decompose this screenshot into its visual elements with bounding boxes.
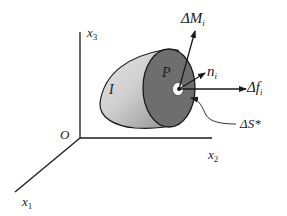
x1-axis-label: x1 bbox=[22, 195, 32, 211]
surface-leader-line bbox=[191, 98, 236, 124]
x3-axis-label: x3 bbox=[87, 26, 97, 42]
moment-label: ΔMi bbox=[181, 11, 205, 28]
diagram-drawing bbox=[0, 0, 287, 216]
body-label: I bbox=[109, 83, 114, 97]
force-label: Δfi bbox=[247, 80, 263, 97]
x2-axis-label: x2 bbox=[208, 148, 218, 164]
x1-axis bbox=[15, 138, 80, 192]
surface-label: ΔS* bbox=[240, 117, 261, 130]
point-label: P bbox=[162, 66, 171, 80]
normal-label: ni bbox=[207, 64, 217, 81]
origin-label: O bbox=[60, 128, 69, 141]
diagram-canvas: O x3 x2 x1 I P ΔMi ni Δfi ΔS* bbox=[0, 0, 287, 216]
